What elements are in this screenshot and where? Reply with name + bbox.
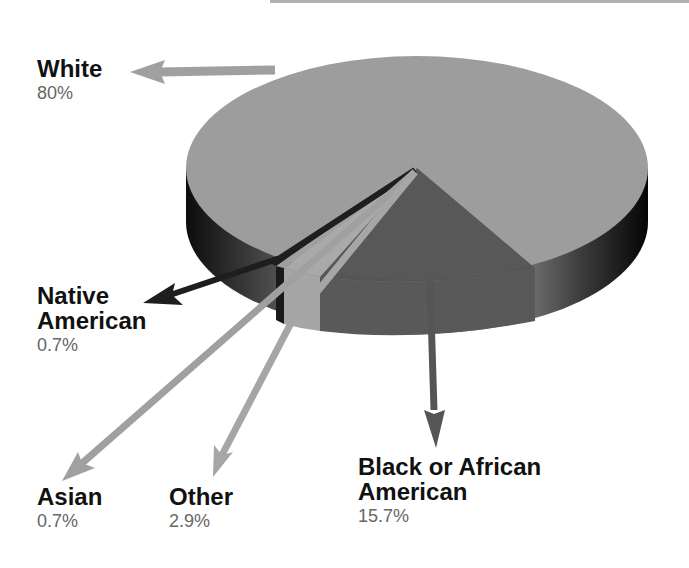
label-asian-percent: 0.7% bbox=[37, 512, 102, 531]
label-native-american: Native American 0.7% bbox=[37, 283, 146, 355]
label-white-name: White bbox=[37, 56, 102, 81]
label-native-american-name-line1: Native bbox=[37, 283, 146, 308]
label-asian-name: Asian bbox=[37, 484, 102, 509]
label-black-percent: 15.7% bbox=[358, 507, 541, 526]
label-black-name-line2: American bbox=[358, 479, 541, 504]
label-black-or-african-american: Black or African American 15.7% bbox=[358, 454, 541, 526]
arrow-white bbox=[130, 60, 275, 84]
label-other-name: Other bbox=[169, 484, 233, 509]
label-asian: Asian 0.7% bbox=[37, 484, 102, 531]
label-other-percent: 2.9% bbox=[169, 512, 233, 531]
pie-top-face bbox=[186, 56, 648, 282]
label-black-name-line1: Black or African bbox=[358, 454, 541, 479]
label-native-american-percent: 0.7% bbox=[37, 336, 146, 355]
label-native-american-name-line2: American bbox=[37, 308, 146, 333]
label-white: White 80% bbox=[37, 56, 102, 103]
label-white-percent: 80% bbox=[37, 84, 102, 103]
label-other: Other 2.9% bbox=[169, 484, 233, 531]
